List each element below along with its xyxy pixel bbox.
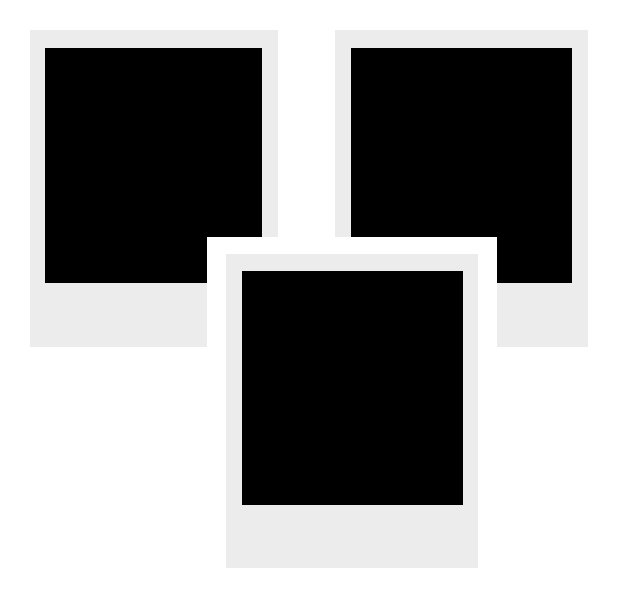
photo-black-bottom bbox=[242, 271, 463, 505]
polaroid-frame-bottom bbox=[226, 254, 478, 568]
